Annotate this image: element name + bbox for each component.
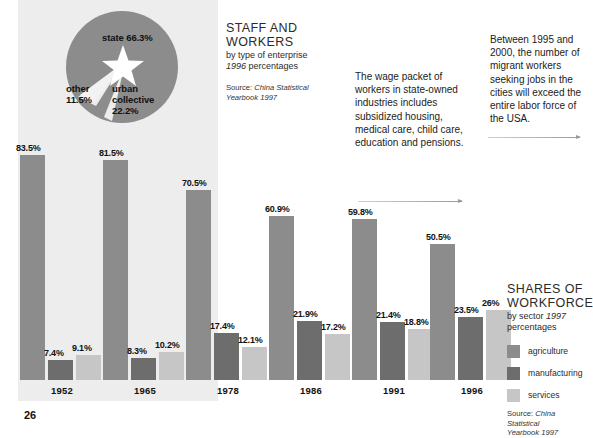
bar-services-1986: 17.2% xyxy=(325,334,350,380)
bar-value-agriculture-1986: 60.9% xyxy=(265,204,290,214)
pie-label-other-name: other xyxy=(66,83,106,94)
legend-title-line1: SHARES OF xyxy=(507,283,585,297)
bar-value-manufacturing-1991: 21.4% xyxy=(376,310,401,320)
bar-value-agriculture-1991: 59.8% xyxy=(348,207,373,217)
bar-group-1965: 81.5%8.3%10.2%1965 xyxy=(103,120,184,380)
legend-subtitle-line1: by sector xyxy=(507,311,546,321)
legend-subtitle-line2: percentages xyxy=(507,322,557,332)
pie-label-urban-line1: urban xyxy=(112,83,164,94)
bar-group-label-1986: 1986 xyxy=(269,385,353,396)
pie-label-state: state 66.3% xyxy=(102,32,153,43)
bar-value-agriculture-1978: 70.5% xyxy=(182,178,207,188)
staff-title-line2: WORKERS xyxy=(226,36,318,50)
bar-value-services-1978: 12.1% xyxy=(238,335,263,345)
legend-title: SHARES OF WORKFORCE xyxy=(507,283,585,310)
bar-agriculture-1991: 59.8% xyxy=(352,219,377,380)
bar-group-1952: 83.5%7.4%9.1%1952 xyxy=(20,120,101,380)
bar-group-label-1978: 1978 xyxy=(186,385,270,396)
bar-value-services-1952: 9.1% xyxy=(72,343,92,353)
bar-group-1978: 70.5%17.4%12.1%1978 xyxy=(186,120,267,380)
pie-label-urban-value: 22.2% xyxy=(112,105,164,116)
bar-value-services-1965: 10.2% xyxy=(155,340,180,350)
staff-subtitle: by type of enterprise 1996 percentages xyxy=(226,50,318,72)
staff-source-year: Yearbook 1997 xyxy=(226,93,277,102)
bar-value-services-1996: 26% xyxy=(482,298,499,308)
legend-label-manufacturing: manufacturing xyxy=(528,368,582,378)
bar-manufacturing-1952: 7.4% xyxy=(48,360,73,380)
staff-title: STAFF AND WORKERS xyxy=(226,22,318,49)
bar-agriculture-1986: 60.9% xyxy=(269,216,294,380)
bar-group-label-1952: 1952 xyxy=(20,385,104,396)
bar-services-1978: 12.1% xyxy=(242,347,267,380)
bar-manufacturing-1978: 17.4% xyxy=(214,333,239,380)
bar-agriculture-1965: 81.5% xyxy=(103,160,128,380)
legend-title-line2: WORKFORCE xyxy=(507,297,585,311)
staff-source-prefix: Source: xyxy=(226,83,254,92)
bar-value-manufacturing-1996: 23.5% xyxy=(454,305,479,315)
bar-group-label-1991: 1991 xyxy=(352,385,436,396)
bar-agriculture-1952: 83.5% xyxy=(20,155,45,380)
legend-swatch-services xyxy=(507,389,520,402)
bar-manufacturing-1965: 8.3% xyxy=(131,358,156,380)
bar-manufacturing-1996: 23.5% xyxy=(458,317,483,380)
bar-agriculture-1996: 50.5% xyxy=(430,244,455,380)
bar-group-1991: 59.8%21.4%18.8%1991 xyxy=(352,120,433,380)
staff-subtitle-line1: by type of enterprise xyxy=(226,50,308,60)
legend-label-services: services xyxy=(528,390,560,400)
legend-source: Source: China Statistical Yearbook 1997 xyxy=(507,409,585,438)
staff-source-publication: China Statistical xyxy=(254,83,308,92)
legend-item-manufacturing: manufacturing xyxy=(507,365,585,381)
bar-manufacturing-1986: 21.9% xyxy=(297,321,322,380)
arrow-head xyxy=(576,135,581,139)
legend-subtitle-year: 1997 xyxy=(546,311,566,321)
legend-subtitle: by sector 1997 percentages xyxy=(507,311,585,333)
bar-services-1965: 10.2% xyxy=(159,352,184,380)
pie-label-other-value: 11.5% xyxy=(66,94,106,105)
bar-value-manufacturing-1986: 21.9% xyxy=(293,309,318,319)
bar-value-agriculture-1965: 81.5% xyxy=(99,148,124,158)
bar-services-1952: 9.1% xyxy=(76,355,101,380)
bar-value-agriculture-1996: 50.5% xyxy=(426,232,451,242)
bar-agriculture-1978: 70.5% xyxy=(186,190,211,380)
pie-label-urban-collective: urban collective 22.2% xyxy=(112,83,164,116)
page-number: 26 xyxy=(24,409,36,421)
staff-source: Source: China Statistical Yearbook 1997 xyxy=(226,83,318,102)
staff-title-line1: STAFF AND xyxy=(226,22,318,36)
bar-value-services-1986: 17.2% xyxy=(321,322,346,332)
annotation-migrant-workers: Between 1995 and 2000, the number of mig… xyxy=(490,33,586,125)
bar-group-1986: 60.9%21.9%17.2%1986 xyxy=(269,120,350,380)
bar-value-manufacturing-1978: 17.4% xyxy=(210,321,235,331)
legend-swatch-manufacturing xyxy=(507,367,520,380)
bar-value-manufacturing-1965: 8.3% xyxy=(127,346,147,356)
legend-label-agriculture: agriculture xyxy=(528,346,568,356)
legend-item-agriculture: agriculture xyxy=(507,343,585,359)
staff-subtitle-year: 1996 xyxy=(226,61,246,71)
bar-group-label-1996: 1996 xyxy=(430,385,514,396)
pie-label-other: other 11.5% xyxy=(66,83,106,105)
legend-items: agriculturemanufacturingservices xyxy=(507,343,585,403)
legend-source-prefix: Source: xyxy=(507,409,535,418)
staff-and-workers-caption: STAFF AND WORKERS by type of enterprise … xyxy=(226,22,318,102)
bar-group-1996: 50.5%23.5%26%1996 xyxy=(430,120,511,380)
staff-subtitle-rest: percentages xyxy=(246,61,298,71)
bar-value-services-1991: 18.8% xyxy=(404,317,429,327)
pie-chart-staff-and-workers: state 66.3% other 11.5% urban collective… xyxy=(60,5,188,130)
shares-of-workforce-legend: SHARES OF WORKFORCE by sector 1997 perce… xyxy=(507,283,585,438)
bar-group-label-1965: 1965 xyxy=(103,385,187,396)
legend-swatch-agriculture xyxy=(507,345,520,358)
legend-source-year: Yearbook 1997 xyxy=(507,428,558,437)
bar-value-agriculture-1952: 83.5% xyxy=(16,143,41,153)
legend-item-services: services xyxy=(507,387,585,403)
bar-value-manufacturing-1952: 7.4% xyxy=(44,348,64,358)
pie-label-urban-line2: collective xyxy=(112,94,164,105)
bar-manufacturing-1991: 21.4% xyxy=(380,322,405,380)
bar-chart-shares-of-workforce: 83.5%7.4%9.1%195281.5%8.3%10.2%196570.5%… xyxy=(0,120,490,401)
